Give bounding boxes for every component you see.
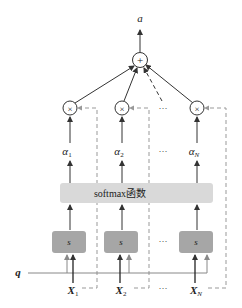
multiply-node-1: × [63, 101, 77, 115]
input-label-N: XN [189, 284, 202, 298]
score-box-1: s [52, 231, 86, 253]
output-label: a [137, 12, 143, 24]
attention-diagram: a + × × ··· × α1 α2 ··· αN [0, 0, 242, 308]
score-label: s [119, 237, 123, 247]
query-label: q [15, 266, 21, 278]
alpha-label-2: α2 [114, 145, 124, 159]
plus-icon: + [137, 54, 143, 66]
multiply-node-2: × [115, 101, 129, 115]
input-label-1: X1 [67, 284, 79, 298]
sum-node: + [133, 53, 148, 68]
score-label: s [194, 237, 198, 247]
softmax-label: softmax函数 [94, 187, 146, 199]
multiply-icon: × [119, 104, 124, 114]
ellipsis-input: ··· [159, 283, 168, 293]
arrow-ellipsis-to-sum [144, 68, 162, 101]
alpha-label-N: αN [189, 145, 200, 159]
arrow-mul2-to-sum [124, 68, 137, 101]
score-box-N: s [179, 231, 213, 253]
alpha-label-1: α1 [62, 145, 72, 159]
multiply-icon: × [194, 104, 199, 114]
score-box-2: s [104, 231, 138, 253]
ellipsis-multiply: ··· [159, 103, 168, 113]
score-label: s [67, 237, 71, 247]
multiply-node-N: × [190, 101, 204, 115]
ellipsis-alpha: ··· [159, 146, 168, 156]
arrow-mulN-to-sum [146, 65, 193, 103]
multiply-icon: × [67, 104, 72, 114]
softmax-block: softmax函数 [60, 183, 213, 203]
input-label-2: X2 [115, 284, 127, 298]
ellipsis-score: ··· [159, 236, 168, 246]
